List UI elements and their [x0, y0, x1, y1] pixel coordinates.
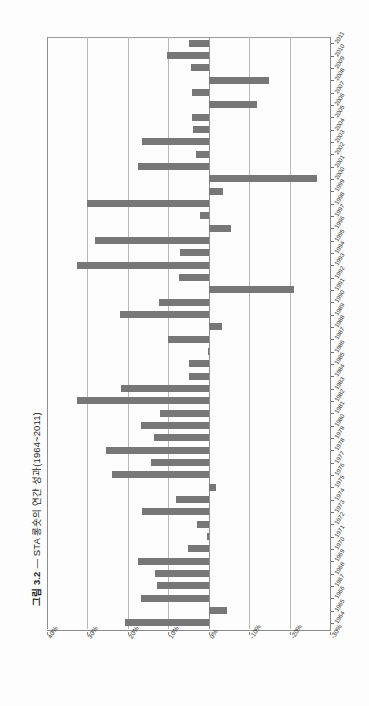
category-axis-label-2008: 2008 — [333, 67, 345, 82]
bar-2001 — [138, 163, 209, 170]
category-axis-tick — [331, 438, 334, 439]
category-axis-tick — [331, 549, 334, 550]
category-axis-tick — [331, 302, 334, 303]
category-axis-label-2004: 2004 — [333, 117, 345, 132]
category-axis-label-2006: 2006 — [333, 92, 345, 107]
bar-1981 — [160, 410, 209, 417]
category-axis-tick — [331, 265, 334, 266]
category-axis-label-1982: 1982 — [333, 388, 345, 403]
category-axis-tick — [331, 463, 334, 464]
bar-1980 — [141, 422, 209, 429]
category-axis-label-1970: 1970 — [333, 536, 345, 551]
category-axis-tick — [331, 315, 334, 316]
category-axis-label-1999: 1999 — [333, 178, 345, 193]
figure-title-label: 그림 3.2 — [29, 572, 43, 606]
category-axis-label-1986: 1986 — [333, 339, 345, 354]
bar-2009 — [191, 64, 209, 71]
bar-1966 — [141, 595, 209, 602]
category-axis-tick — [331, 191, 334, 192]
category-axis-tick — [331, 574, 334, 575]
bar-1994 — [180, 249, 208, 256]
bar-1996 — [209, 225, 231, 232]
category-axis-label-1967: 1967 — [333, 573, 345, 588]
category-axis-label-2009: 2009 — [333, 55, 345, 70]
bar-1984 — [189, 373, 208, 380]
category-axis-label-1972: 1972 — [333, 511, 345, 526]
gridline-40 — [47, 37, 48, 629]
bar-1971 — [207, 533, 209, 540]
bar-1997 — [200, 212, 209, 219]
category-axis-tick — [331, 561, 334, 562]
category-axis-tick — [331, 500, 334, 501]
gridline-10 — [168, 37, 169, 629]
bar-1975 — [209, 484, 217, 491]
bar-1990 — [159, 299, 208, 306]
gridline-neg20 — [290, 37, 291, 629]
category-axis-label-1983: 1983 — [333, 376, 345, 391]
category-axis-tick — [331, 204, 334, 205]
category-axis-tick — [331, 364, 334, 365]
category-axis-tick — [331, 68, 334, 69]
category-axis-label-1979: 1979 — [333, 425, 345, 440]
bar-1987 — [168, 336, 208, 343]
bar-2006 — [209, 101, 258, 108]
bar-1977 — [151, 459, 209, 466]
category-axis-label-2002: 2002 — [333, 141, 345, 156]
category-axis-label-1987: 1987 — [333, 326, 345, 341]
category-axis-label-1993: 1993 — [333, 252, 345, 267]
figure-title: 그림 3.2 — STA 롱숏의 연간 성과(1964~2011) — [26, 366, 46, 606]
category-axis-label-1980: 1980 — [333, 413, 345, 428]
bar-2003 — [142, 138, 209, 145]
chart-plot-area — [47, 37, 330, 629]
category-axis-line — [330, 37, 331, 631]
category-axis-tick — [331, 450, 334, 451]
bar-2005 — [192, 114, 209, 121]
category-axis-tick — [331, 426, 334, 427]
category-axis-tick — [331, 352, 334, 353]
bar-2000 — [209, 175, 317, 182]
bar-1969 — [138, 558, 209, 565]
category-axis-label-1968: 1968 — [333, 561, 345, 576]
category-axis-tick — [331, 278, 334, 279]
category-axis-label-2000: 2000 — [333, 166, 345, 181]
category-axis-tick — [331, 290, 334, 291]
bar-2004 — [193, 126, 209, 133]
category-axis-tick — [331, 93, 334, 94]
category-axis-label-1978: 1978 — [333, 437, 345, 452]
category-axis-label-1966: 1966 — [333, 585, 345, 600]
gridline-20 — [128, 37, 129, 629]
category-axis-tick — [331, 179, 334, 180]
figure-title-caption: — STA 롱숏의 연간 성과(1964~2011) — [29, 412, 43, 568]
category-axis-tick — [331, 524, 334, 525]
bar-1986 — [208, 348, 209, 355]
category-axis-label-1976: 1976 — [333, 462, 345, 477]
figure-title-text: STA 롱숏의 연간 성과(1964~2011) — [31, 412, 42, 556]
bar-1988 — [209, 323, 222, 330]
category-axis-tick — [331, 80, 334, 81]
category-axis-label-2011: 2011 — [333, 31, 345, 45]
bar-2007 — [192, 89, 209, 96]
category-axis-tick — [331, 117, 334, 118]
category-axis-tick — [331, 537, 334, 538]
category-axis-label-1998: 1998 — [333, 191, 345, 206]
plot-top-border — [47, 37, 330, 38]
bar-1995 — [95, 237, 209, 244]
category-axis-tick — [331, 142, 334, 143]
category-axis-tick — [331, 105, 334, 106]
category-axis-label-1981: 1981 — [333, 400, 345, 415]
category-axis-label-1975: 1975 — [333, 474, 345, 489]
figure-title-dash: — — [31, 559, 42, 569]
bar-1970 — [188, 545, 209, 552]
bar-2010 — [167, 52, 208, 59]
bar-1989 — [120, 311, 209, 318]
category-axis-label-2003: 2003 — [333, 129, 345, 144]
category-axis-label-1985: 1985 — [333, 351, 345, 366]
bar-1979 — [154, 434, 209, 441]
bar-1976 — [112, 471, 209, 478]
category-axis-tick — [331, 401, 334, 402]
bar-1973 — [142, 508, 209, 515]
category-axis-label-1977: 1977 — [333, 450, 345, 465]
category-axis-tick — [331, 623, 334, 624]
category-axis-label-1997: 1997 — [333, 203, 345, 218]
bar-2011 — [189, 40, 208, 47]
